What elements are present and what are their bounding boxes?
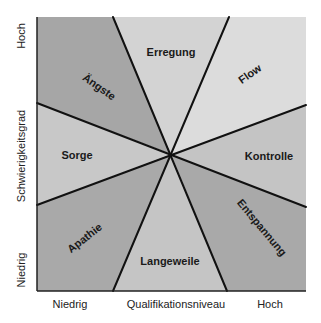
x-axis-high-label: Hoch [257,298,283,310]
y-axis-high-label: Hoch [15,23,27,49]
x-axis-low-label: Niedrig [53,298,88,310]
flow-channel-diagram: Ängste Erregung Flow Kontrolle Entspannu… [0,0,321,323]
y-axis-title: Schwierigkeitsgrad [15,110,27,202]
y-axis-low-label: Niedrig [15,253,27,288]
label-sorge: Sorge [61,149,92,161]
label-langeweile: Langeweile [140,255,199,267]
label-kontrolle: Kontrolle [245,150,293,162]
label-erregung: Erregung [147,46,196,58]
x-axis-title: Qualifikationsniveau [127,298,225,310]
